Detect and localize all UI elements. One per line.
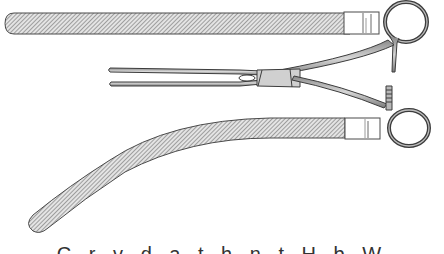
forceps-jaws	[109, 68, 301, 87]
clamp-illustration	[0, 0, 444, 254]
straight-jaw	[5, 12, 379, 34]
figure-caption: C r v d a t h n t H b W	[0, 241, 444, 254]
curved-jaw	[29, 118, 381, 232]
